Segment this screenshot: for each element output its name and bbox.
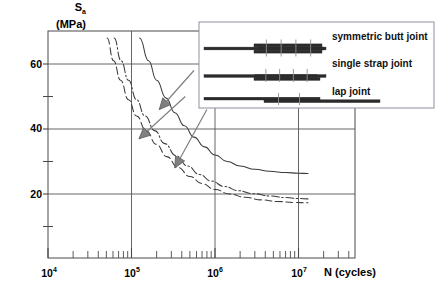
y-axis-title: Sa (MPa) xyxy=(40,2,86,31)
sn-fatigue-chart: Sa (MPa) 60 40 20 104 105 106 107 N (cyc… xyxy=(0,0,447,296)
x-tick-label-1e7: 107 xyxy=(284,266,314,279)
annotation-arrowhead-2 xyxy=(175,156,185,168)
x-axis-title: N (cycles) xyxy=(324,266,376,278)
x-tick-label-1e6: 106 xyxy=(200,266,230,279)
lap-joint-plate-lower xyxy=(264,100,380,103)
y-tick-label-20: 20 xyxy=(14,188,42,200)
x-tick-exp-1e5: 5 xyxy=(136,266,140,273)
x-tick-base-1e5: 10 xyxy=(124,267,136,279)
x-tick-exp-1e7: 7 xyxy=(303,266,307,273)
butt-joint-strap-bottom xyxy=(254,50,322,53)
single-strap-plate-right xyxy=(255,75,317,78)
butt-joint-plate-right xyxy=(258,47,324,50)
y-tick-label-40: 40 xyxy=(14,122,42,134)
butt-joint-strap-top xyxy=(254,44,322,47)
x-tick-label-1e5: 105 xyxy=(117,266,147,279)
legend-label-symmetric-butt-joint: symmetric butt joint xyxy=(332,31,428,42)
y-tick-label-60: 60 xyxy=(14,58,42,70)
chart-canvas xyxy=(0,0,447,296)
legend-label-single-strap-joint: single strap joint xyxy=(332,58,412,69)
x-tick-base-1e4: 10 xyxy=(41,267,53,279)
x-tick-exp-1e6: 6 xyxy=(219,266,223,273)
legend-label-lap-joint: lap joint xyxy=(332,86,370,97)
y-axis-units: (MPa) xyxy=(40,18,86,31)
y-axis-title-subscript: a xyxy=(82,8,86,15)
y-axis-title-symbol: S xyxy=(75,1,82,13)
single-strap-strap xyxy=(254,77,320,80)
x-tick-base-1e6: 10 xyxy=(207,267,219,279)
lap-joint-plate-upper xyxy=(204,97,320,100)
x-tick-label-1e4: 104 xyxy=(34,266,64,279)
x-tick-exp-1e4: 4 xyxy=(53,266,57,273)
x-tick-base-1e7: 10 xyxy=(291,267,303,279)
